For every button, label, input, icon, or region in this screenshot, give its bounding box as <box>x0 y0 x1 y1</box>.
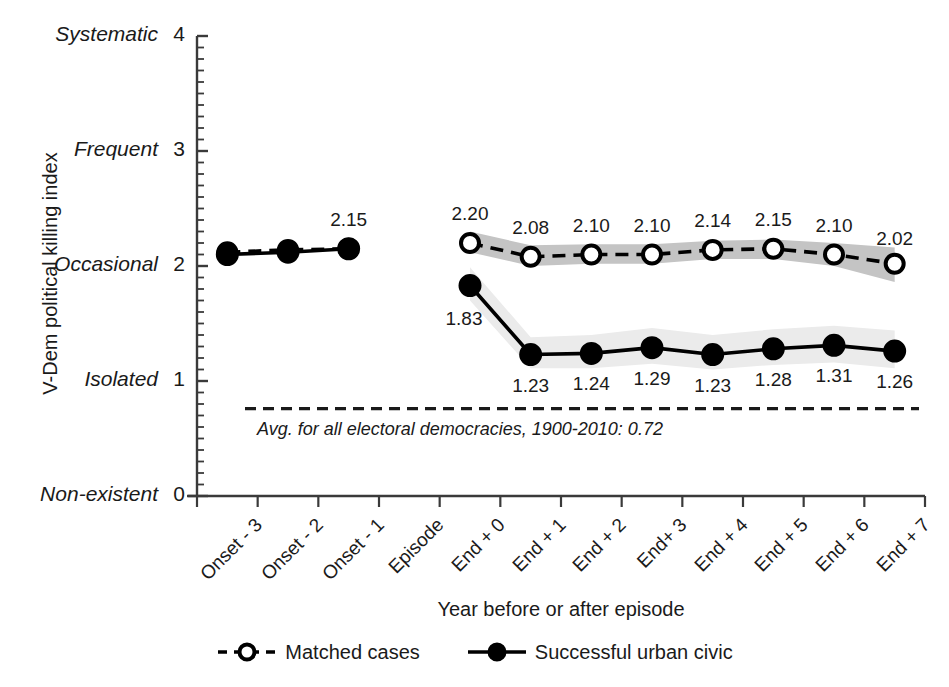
y-axis-tick-value: 2 <box>167 252 185 276</box>
data-point-1-4 <box>461 234 479 252</box>
legend-entry-1[interactable]: Matched cases <box>216 640 420 664</box>
data-label-1-6: 2.10 <box>573 215 610 237</box>
y-axis-tick-category: Non-existent <box>40 482 158 505</box>
data-point-2-6 <box>581 343 602 364</box>
data-point-2-10 <box>824 335 845 356</box>
legend-label: Successful urban civic <box>535 641 733 664</box>
reference-line-label: Avg. for all electoral democracies, 1900… <box>257 419 663 440</box>
data-label-2-6: 1.24 <box>573 373 610 395</box>
data-label-2-11: 1.26 <box>876 371 913 393</box>
y-axis-tick-category: Isolated <box>84 367 158 390</box>
y-axis-tick-label: Non-existent0 <box>5 482 185 506</box>
y-axis-tick-category: Frequent <box>74 137 158 160</box>
data-point-2-2 <box>338 238 359 259</box>
y-axis-tick-category: Occasional <box>54 252 158 275</box>
legend-marker <box>488 644 505 661</box>
data-label-1-7: 2.10 <box>634 215 671 237</box>
data-point-1-8 <box>704 241 722 259</box>
y-axis-tick-label: Isolated1 <box>5 367 185 391</box>
data-label-1-8: 2.14 <box>694 210 731 232</box>
y-axis-tick-label: Systematic4 <box>5 22 185 46</box>
data-label-1-9: 2.15 <box>755 209 792 231</box>
data-point-1-11 <box>886 255 904 273</box>
data-point-1-5 <box>522 248 540 266</box>
x-axis-title: Year before or after episode <box>197 598 925 621</box>
data-point-2-0 <box>217 244 238 265</box>
legend-swatch-open-circle <box>216 640 278 664</box>
plot-area <box>0 0 949 687</box>
y-axis-tick-value: 1 <box>167 367 185 391</box>
data-label-2-8: 1.23 <box>694 375 731 397</box>
data-point-2-5 <box>520 344 541 365</box>
legend-swatch-filled-circle <box>466 640 528 664</box>
data-label-2-5: 1.23 <box>512 375 549 397</box>
y-axis-tick-label: Occasional2 <box>5 252 185 276</box>
data-label-1-2: 2.15 <box>330 209 367 231</box>
data-label-2-4: 1.83 <box>446 308 483 330</box>
y-axis-tick-value: 0 <box>167 482 185 506</box>
data-point-2-4 <box>460 275 481 296</box>
data-point-1-7 <box>643 246 661 264</box>
data-label-2-10: 1.31 <box>816 365 853 387</box>
data-point-2-7 <box>642 337 663 358</box>
data-point-2-9 <box>763 338 784 359</box>
data-label-1-11: 2.02 <box>876 228 913 250</box>
y-axis-tick-value: 4 <box>167 22 185 46</box>
data-label-2-7: 1.29 <box>634 368 671 390</box>
data-label-1-10: 2.10 <box>816 215 853 237</box>
data-point-2-11 <box>884 341 905 362</box>
data-point-2-1 <box>278 242 299 263</box>
y-axis-tick-value: 3 <box>167 137 185 161</box>
legend-entry-2[interactable]: Successful urban civic <box>466 640 733 664</box>
data-label-1-5: 2.08 <box>512 217 549 239</box>
data-point-2-8 <box>702 344 723 365</box>
legend-label: Matched cases <box>285 641 420 664</box>
data-label-2-9: 1.28 <box>755 369 792 391</box>
chart-figure: V-Dem political killing indexNon-existen… <box>0 0 949 687</box>
legend-marker <box>240 645 255 660</box>
y-axis-tick-category: Systematic <box>55 22 158 45</box>
y-axis-tick-label: Frequent3 <box>5 137 185 161</box>
data-point-1-10 <box>825 246 843 264</box>
data-point-1-6 <box>582 246 600 264</box>
data-point-1-9 <box>764 240 782 258</box>
data-label-1-4: 2.20 <box>452 203 489 225</box>
chart-legend: Matched casesSuccessful urban civic <box>0 640 949 664</box>
